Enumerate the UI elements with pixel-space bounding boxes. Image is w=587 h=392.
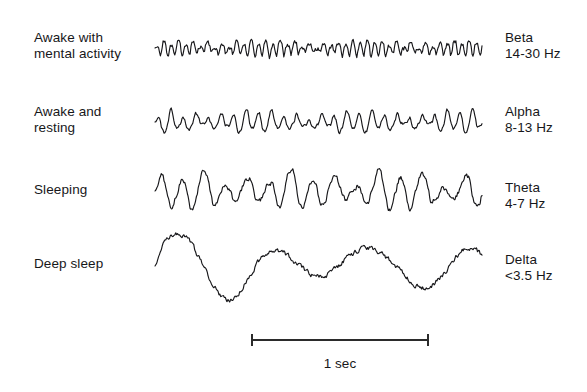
delta-waveform — [155, 233, 482, 302]
beta-waveform — [155, 39, 482, 58]
eeg-waveform-figure: Awake with mental activity Awake and res… — [0, 0, 587, 392]
theta-waveform — [155, 169, 482, 212]
waveform-canvas — [0, 0, 587, 392]
time-scale-bar — [252, 334, 428, 346]
scale-bar-caption: 1 sec — [252, 356, 428, 372]
alpha-waveform — [155, 108, 482, 134]
